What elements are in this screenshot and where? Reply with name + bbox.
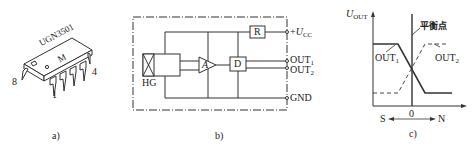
block-diagram (133, 17, 289, 110)
origin-label: 0 (409, 109, 414, 119)
caption-a: a) (52, 131, 60, 141)
south-label: S (380, 114, 386, 124)
pin4-label: 4 (92, 67, 97, 77)
y-axis-label: UOUT (346, 9, 368, 21)
out2-main: OUT (290, 64, 311, 75)
north-label: N (438, 114, 445, 124)
out2-curve-main: OUT (435, 52, 456, 63)
pin-out2-label: OUT2 (290, 65, 314, 77)
balance-point-label: 平衡点 (420, 22, 447, 31)
out1-curve-label: OUT1 (375, 53, 399, 65)
pin1-label: 1 (52, 90, 57, 100)
vcc-sub: CC (303, 31, 312, 39)
out2-curve-label: OUT2 (435, 53, 459, 65)
out1-curve-main: OUT (375, 52, 396, 63)
caption-c: c) (409, 129, 417, 139)
output-characteristic-chart (371, 11, 467, 121)
hall-generator-label: HG (142, 78, 156, 88)
caption-b: b) (215, 131, 223, 141)
pin-gnd-label: GND (290, 93, 312, 103)
y-axis-sub: OUT (353, 13, 367, 21)
out1-curve-sub: 1 (396, 57, 400, 65)
out2-sub: 2 (311, 69, 315, 77)
out2-curve-sub: 2 (456, 57, 460, 65)
pin-vcc-label: +UCC (290, 27, 312, 39)
vcc-main: U (296, 26, 303, 37)
resistor-label: R (254, 27, 261, 37)
pin8-label: 8 (12, 77, 17, 87)
driver-label: D (234, 59, 241, 69)
amplifier-label: A (202, 60, 208, 70)
